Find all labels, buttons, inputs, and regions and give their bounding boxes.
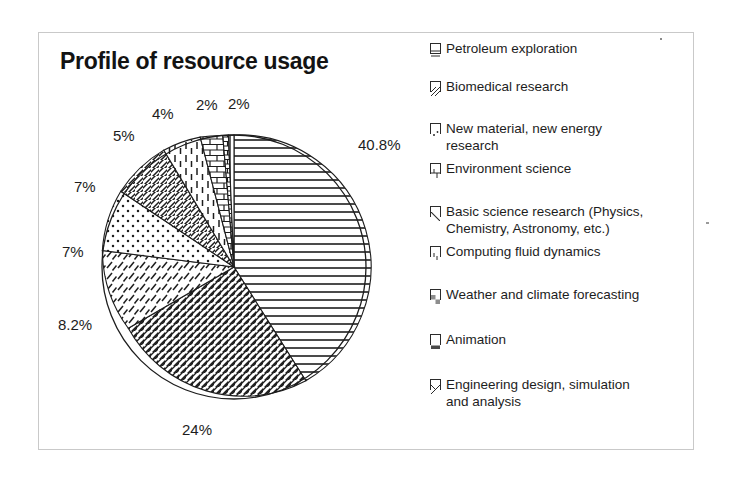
legend-label: Animation (446, 331, 506, 348)
slice-label-4: 4% (152, 105, 174, 122)
pie-svg (95, 128, 373, 406)
legend: Petroleum exploration Biomedical researc… (430, 40, 680, 424)
legend-item-engineering[interactable]: Engineering design, simulation and analy… (430, 376, 680, 410)
cross-swatch-icon (430, 379, 441, 390)
legend-item-cfd[interactable]: Computing fluid dynamics (430, 243, 680, 260)
speck-artifact (706, 222, 709, 224)
backslash-swatch-icon (430, 206, 441, 217)
legend-label-main: Biomedical research (446, 79, 568, 94)
legend-label: Biomedical research (446, 78, 568, 95)
legend-label-main: New material, new energy (446, 121, 602, 136)
slice-label-7-a: 7% (62, 243, 84, 260)
legend-label-main: Basic science research (Physics, (446, 204, 643, 219)
legend-label-main: Animation (446, 332, 506, 347)
legend-label-main: Engineering design, simulation (446, 377, 630, 392)
legend-label: Weather and climate forecasting (446, 286, 639, 303)
legend-item-petroleum[interactable]: Petroleum exploration (430, 40, 680, 57)
legend-item-basic-science[interactable]: Basic science research (Physics, Chemist… (430, 203, 680, 237)
slice-label-24: 24% (182, 421, 212, 438)
legend-item-weather[interactable]: Weather and climate forecasting (430, 286, 680, 303)
legend-item-environment[interactable]: Environment science (430, 160, 680, 177)
legend-label: Environment science (446, 160, 571, 177)
legend-item-biomedical[interactable]: Biomedical research (430, 78, 680, 95)
page-title: Profile of resource usage (60, 48, 329, 75)
slice-label-8-2: 8.2% (58, 316, 92, 333)
bottom-band-swatch-icon (430, 334, 441, 345)
legend-label: Engineering design, simulation and analy… (446, 376, 630, 410)
legend-label-continuation: research (446, 137, 602, 154)
pie-chart (95, 128, 373, 406)
legend-label: Basic science research (Physics, Chemist… (446, 203, 643, 237)
slice-label-5: 5% (113, 127, 135, 144)
diagonal-lines-swatch-icon (430, 81, 441, 92)
slice-label-40-8: 40.8% (358, 136, 401, 153)
pie-slices (102, 135, 371, 399)
legend-label-main: Computing fluid dynamics (446, 244, 601, 259)
legend-item-animation[interactable]: Animation (430, 331, 680, 348)
legend-label-continuation: Chemistry, Astronomy, etc.) (446, 220, 643, 237)
checker-swatch-icon (430, 289, 441, 300)
slice-label-7-b: 7% (74, 178, 96, 195)
dots-swatch-icon (430, 123, 441, 134)
legend-label-continuation: and analysis (446, 393, 630, 410)
slice-label-2-a: 2% (196, 96, 218, 113)
legend-label-main: Petroleum exploration (446, 41, 577, 56)
slice-label-2-b: 2% (228, 95, 250, 112)
vertical-dash-swatch-icon (430, 246, 441, 257)
brick-swatch-icon (430, 163, 441, 174)
legend-label-main: Weather and climate forecasting (446, 287, 639, 302)
legend-label-main: Environment science (446, 161, 571, 176)
legend-label: New material, new energy research (446, 120, 602, 154)
horizontal-lines-swatch-icon (430, 43, 441, 54)
legend-item-new-material[interactable]: New material, new energy research (430, 120, 680, 154)
legend-label: Computing fluid dynamics (446, 243, 601, 260)
legend-label: Petroleum exploration (446, 40, 577, 57)
